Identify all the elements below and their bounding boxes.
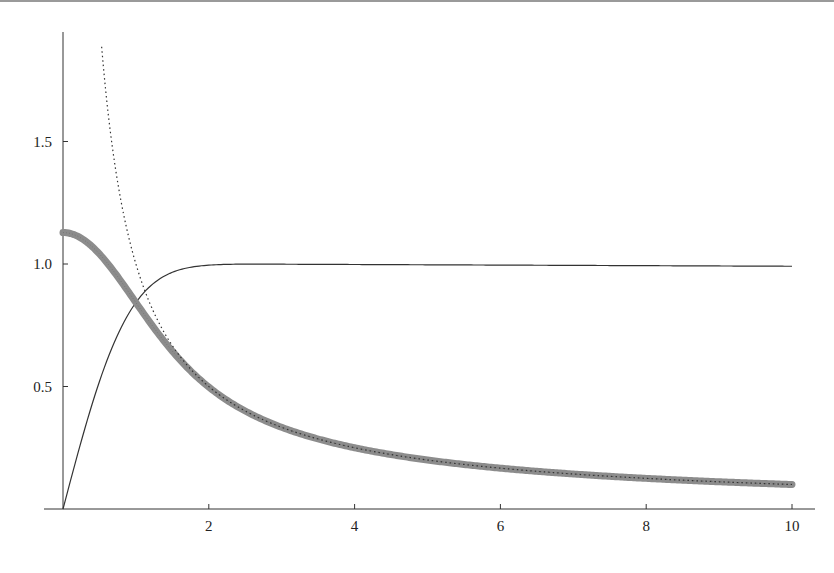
curves (63, 47, 792, 509)
x-tick-label: 10 (785, 518, 800, 534)
y-tick-label: 0.5 (33, 379, 52, 395)
y-tick-label: 1.5 (33, 134, 52, 150)
y-tick-label: 1.0 (33, 256, 52, 272)
series-erf-over-x-texture (63, 233, 792, 485)
line-chart: 2468100.51.01.5 (0, 0, 834, 573)
x-tick-label: 2 (205, 518, 213, 534)
tick-labels: 2468100.51.01.5 (33, 134, 799, 535)
x-tick-label: 8 (642, 518, 650, 534)
series-erf-over-x-thick (63, 233, 792, 485)
axes (44, 32, 815, 509)
series-erf-line (63, 264, 792, 509)
x-tick-label: 6 (497, 518, 505, 534)
x-tick-label: 4 (351, 518, 359, 534)
